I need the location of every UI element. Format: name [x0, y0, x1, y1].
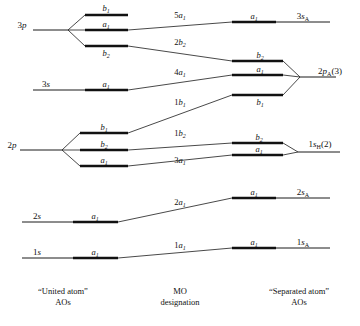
fan-3p-b2: [68, 30, 85, 46]
correlation-lines: [118, 22, 232, 258]
correlation-1b2: [128, 143, 232, 150]
mo-label-1b2: 1b2: [174, 128, 186, 139]
sym-label-2pA-b2: b2: [256, 50, 263, 61]
sym-label-3sA-a1: a1: [250, 11, 257, 22]
sym-label-2pA-b1: b1: [256, 97, 263, 108]
converge-2pA-a1: [283, 75, 300, 77]
ao-label-2pA: 2pA(3): [318, 66, 342, 77]
converge-1sH-b2: [283, 143, 298, 152]
ao-label-2p: 2p: [8, 140, 18, 150]
caption-united-atom: “United atom” AOs: [8, 286, 118, 308]
sym-label-2p-b2: b2: [100, 139, 107, 150]
sym-label-1sH-b2: b2: [255, 132, 262, 143]
sym-label-3p-b2: b2: [102, 48, 109, 59]
caption-mo-designation: MO designation: [125, 286, 235, 308]
ao-label-2s: 2s: [33, 211, 42, 221]
mo-label-4a1: 4a1: [174, 67, 186, 78]
converge-2pA-b2: [283, 61, 300, 77]
ao-label-1sH: 1sH(2): [309, 139, 332, 150]
mo-label-1a1: 1a1: [174, 240, 186, 251]
fan-2p-a1: [62, 150, 80, 166]
united-atom-column: 3p b1 a1 b2 3s a1 2p b1 b2 a1 2s a1: [8, 3, 129, 258]
sym-label-3p-a1: a1: [102, 19, 109, 30]
caption-mo-line2: designation: [125, 297, 235, 308]
ao-label-3sA: 3sA: [297, 11, 310, 22]
correlation-4a1: [128, 75, 232, 90]
ao-label-3s: 3s: [42, 79, 51, 89]
ao-label-1s: 1s: [33, 247, 42, 257]
mo-label-2a1: 2a1: [174, 197, 186, 208]
sym-label-1sA-a1: a1: [250, 237, 257, 248]
converge-1sH-a1: [283, 152, 298, 155]
mo-designation-column: 5a1 2b2 4a1 1b1 1b2 3a1 2a1 1a1: [174, 10, 186, 251]
ao-label-2sA: 2sA: [297, 187, 310, 198]
sym-label-2p-b1: b1: [100, 122, 107, 133]
mo-label-5a1: 5a1: [174, 10, 186, 21]
correlation-2b2: [128, 46, 232, 61]
sym-label-3p-b1: b1: [102, 3, 109, 14]
converge-2pA-b1: [283, 77, 300, 95]
sym-label-2sA-a1: a1: [250, 187, 257, 198]
caption-mo-line1: MO: [125, 286, 235, 297]
correlation-5a1: [128, 22, 232, 30]
sym-label-1sH-a1: a1: [255, 144, 262, 155]
caption-separated-atom-line1: “Separated atom”: [243, 286, 355, 297]
ao-label-3p: 3p: [18, 20, 28, 30]
mo-label-2b2: 2b2: [174, 37, 186, 48]
mo-correlation-diagram: 3p b1 a1 b2 3s a1 2p b1 b2 a1 2s a1: [0, 0, 360, 326]
separated-atom-column: a1 3sA b2 a1 b1 2pA(3) b2 a1 1sH(2) a1: [232, 11, 342, 248]
sym-label-2s-a1: a1: [91, 211, 98, 222]
mo-label-1b1: 1b1: [174, 97, 186, 108]
sym-label-2pA-a1: a1: [256, 64, 263, 75]
caption-united-atom-line1: “United atom”: [8, 286, 118, 297]
fan-2p-b1: [62, 133, 80, 150]
caption-separated-atom: “Separated atom” AOs: [243, 286, 355, 308]
mo-label-3a1: 3a1: [174, 155, 186, 166]
sym-label-3s-a1: a1: [102, 79, 109, 90]
fan-3p-b1: [68, 15, 85, 30]
caption-separated-atom-line2: AOs: [243, 297, 355, 308]
caption-united-atom-line2: AOs: [8, 297, 118, 308]
sym-label-2p-a1: a1: [100, 155, 107, 166]
sym-label-1s-a1: a1: [91, 247, 98, 258]
ao-label-1sA: 1sA: [297, 237, 310, 248]
